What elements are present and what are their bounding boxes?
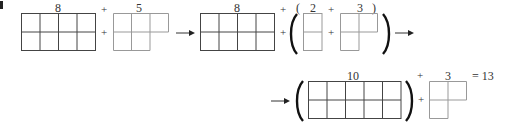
plus-label-top-4: +: [417, 70, 423, 81]
arrow-icon-2: [395, 29, 415, 37]
grid-8-b: [200, 13, 276, 52]
big-open-paren-icon-2: [294, 80, 304, 122]
plus-sign-4: +: [418, 94, 424, 105]
big-open-paren-icon: [288, 13, 298, 55]
big-close-paren-icon: [382, 13, 392, 55]
cropped-label-mark: [0, 1, 3, 9]
plus-sign-3: +: [328, 27, 334, 38]
plus-sign-1: +: [101, 27, 107, 38]
plus-sign-2: +: [280, 27, 286, 38]
big-close-paren-icon-2: [405, 80, 415, 122]
grid-8-a: [21, 13, 97, 52]
shape-3-b: [429, 81, 469, 120]
result-label: = 13: [472, 70, 494, 82]
shape-2: [303, 13, 323, 52]
plus-label-top: +: [101, 4, 107, 15]
plus-label-top-3: +: [328, 4, 334, 15]
shape-5: [113, 13, 170, 52]
arrow-icon-1: [176, 29, 196, 37]
plus-label-top-2: +: [280, 4, 286, 15]
grid-10: [308, 81, 402, 120]
shape-3-a: [340, 13, 380, 52]
arrow-icon-3: [271, 97, 291, 105]
